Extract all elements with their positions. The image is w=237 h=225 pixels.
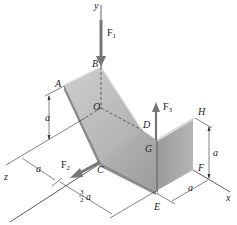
dim-arrow-down-right xyxy=(208,174,211,179)
force-F3-label: F3 xyxy=(163,101,173,114)
force-F3-arrowhead xyxy=(152,102,160,112)
dim-label-frac-var: a xyxy=(86,191,91,202)
dim-label-right-horiz-a: a xyxy=(188,182,193,193)
dim-label-frac-num: 3 xyxy=(80,188,84,196)
force-F2-label: F2 xyxy=(61,159,71,172)
dim-label-left-a: a xyxy=(45,112,50,123)
dim-ext-H xyxy=(195,118,212,128)
point-O-label: O xyxy=(93,101,100,112)
dim-arrow-up xyxy=(48,95,51,100)
statics-diagram: y x z F1 F2 F3 A B O D G H F E C a a 3 2… xyxy=(0,0,237,225)
force-F2-arrowhead xyxy=(70,168,83,178)
point-D-label: D xyxy=(142,119,151,130)
y-axis-label: y xyxy=(93,0,99,11)
dim-label-z-a: a xyxy=(36,163,41,174)
point-B-label: B xyxy=(92,58,98,69)
x-axis xyxy=(193,170,230,192)
point-F-label: F xyxy=(197,162,205,173)
dim-label-frac-den: 2 xyxy=(80,196,84,204)
right-vertical-plate xyxy=(156,118,193,191)
point-E-label: E xyxy=(153,201,160,212)
point-G-label: G xyxy=(145,143,152,154)
point-A-label: A xyxy=(54,78,62,89)
z-axis-label: z xyxy=(3,171,8,182)
right-plate-thickness xyxy=(156,140,158,193)
dim-ext-z-line xyxy=(6,118,85,165)
point-C-label: C xyxy=(97,164,104,175)
dim-label-right-a: a xyxy=(213,147,218,158)
point-H-label: H xyxy=(197,106,206,117)
x-axis-label: x xyxy=(225,192,231,203)
force-F1-label: F1 xyxy=(107,27,117,40)
dim-tick-end xyxy=(110,191,156,218)
